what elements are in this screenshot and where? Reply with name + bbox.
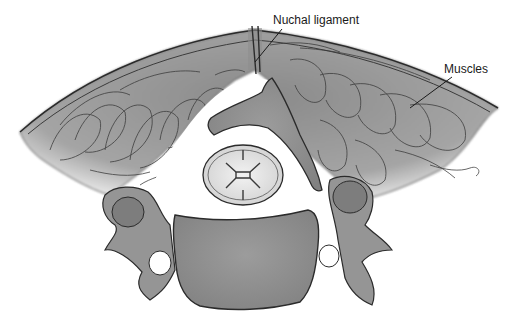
nuchal-ligament xyxy=(248,26,262,74)
vertebra-cross-section-illustration xyxy=(0,0,507,327)
spinal-cord xyxy=(203,145,283,205)
nuchal-ligament-label: Nuchal ligament xyxy=(273,13,359,27)
muscles-label: Muscles xyxy=(444,62,488,76)
